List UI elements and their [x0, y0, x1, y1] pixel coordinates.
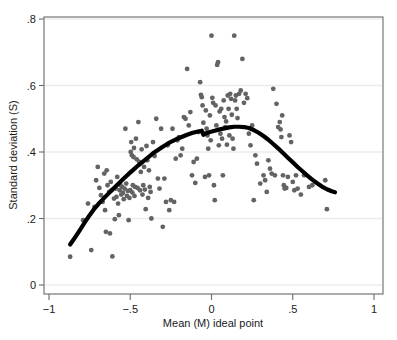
- data-point: [235, 116, 240, 121]
- data-point: [103, 208, 108, 213]
- data-point: [149, 216, 154, 221]
- y-tick-label-2: .4: [27, 146, 36, 158]
- data-point: [218, 131, 223, 136]
- data-point: [136, 120, 141, 125]
- data-point: [129, 140, 134, 145]
- x-tick-label-2: 0: [208, 303, 214, 315]
- data-point: [238, 88, 243, 93]
- data-point: [243, 91, 248, 96]
- data-point: [138, 188, 143, 193]
- data-point: [271, 86, 276, 91]
- data-point: [246, 131, 251, 136]
- data-point: [258, 181, 263, 186]
- data-point: [274, 101, 279, 106]
- data-point: [124, 181, 129, 186]
- data-point: [142, 187, 147, 192]
- data-point: [147, 168, 152, 173]
- data-point: [289, 140, 294, 145]
- data-point: [248, 143, 253, 148]
- data-point: [123, 126, 128, 131]
- data-point: [231, 146, 236, 151]
- data-point: [294, 173, 299, 178]
- data-point: [264, 190, 269, 195]
- x-tick-label-4: 1: [371, 303, 377, 315]
- data-point: [180, 146, 185, 151]
- data-point: [234, 106, 239, 111]
- y-axis-title: Standard deviation (S): [7, 100, 19, 209]
- data-point: [212, 183, 217, 188]
- data-point: [114, 194, 119, 199]
- data-point: [272, 173, 277, 178]
- data-point: [255, 161, 260, 166]
- x-tick-label-0: −1: [43, 303, 56, 315]
- data-point: [207, 173, 212, 178]
- data-point: [278, 127, 283, 132]
- data-point: [268, 166, 273, 171]
- data-point: [162, 176, 167, 181]
- data-point: [121, 190, 126, 195]
- data-point: [186, 123, 191, 128]
- data-point: [97, 186, 102, 191]
- data-point: [138, 170, 143, 175]
- data-point: [298, 192, 303, 197]
- data-point: [126, 218, 131, 223]
- data-point: [220, 136, 225, 141]
- data-point: [216, 143, 221, 148]
- data-point: [295, 186, 300, 191]
- data-point: [140, 192, 145, 197]
- data-point: [219, 106, 224, 111]
- data-point: [208, 138, 213, 143]
- gridlines: [45, 19, 382, 285]
- data-point: [323, 178, 328, 183]
- data-point: [142, 165, 147, 170]
- data-point: [226, 106, 231, 111]
- data-point: [212, 198, 217, 203]
- data-point: [190, 173, 195, 178]
- data-point: [203, 108, 208, 113]
- x-axis-title: Mean (M) ideal point: [163, 317, 263, 329]
- data-point: [210, 95, 215, 100]
- data-point: [324, 207, 329, 212]
- data-point: [157, 186, 162, 191]
- data-point: [68, 254, 73, 259]
- data-point: [277, 120, 282, 125]
- x-tick-label-1: −.5: [122, 303, 138, 315]
- data-point: [164, 199, 169, 204]
- data-point: [287, 133, 292, 138]
- data-point: [221, 98, 226, 103]
- data-point: [222, 115, 227, 120]
- data-point: [143, 207, 148, 212]
- data-point: [185, 66, 190, 71]
- data-point: [104, 168, 109, 173]
- data-point: [240, 57, 245, 62]
- y-tick-label-1: .2: [27, 213, 36, 225]
- y-tick-label-3: .6: [27, 80, 36, 92]
- y-tick-label-4: .8: [27, 13, 36, 25]
- plot-frame: [44, 17, 383, 294]
- x-tick-label-3: .5: [288, 303, 297, 315]
- data-point: [170, 126, 175, 131]
- data-point: [127, 195, 132, 200]
- data-point: [230, 136, 235, 141]
- data-point: [266, 158, 271, 163]
- data-point: [290, 180, 295, 185]
- data-point: [263, 178, 268, 183]
- data-point: [139, 147, 144, 152]
- data-point: [229, 112, 234, 117]
- data-point: [155, 176, 160, 181]
- data-point: [200, 103, 205, 108]
- data-point: [194, 156, 199, 161]
- data-point: [245, 96, 250, 101]
- data-point: [220, 173, 225, 178]
- data-point: [199, 95, 204, 100]
- data-point: [95, 165, 100, 170]
- data-point: [213, 103, 218, 108]
- data-point: [146, 195, 151, 200]
- y-tick-label-0: 0: [30, 279, 36, 291]
- data-point: [281, 173, 286, 178]
- data-point: [110, 254, 115, 259]
- x-axis-ticks: −1−.50.51: [43, 294, 377, 315]
- data-point: [232, 33, 237, 38]
- data-point: [253, 153, 258, 158]
- data-point: [310, 183, 315, 188]
